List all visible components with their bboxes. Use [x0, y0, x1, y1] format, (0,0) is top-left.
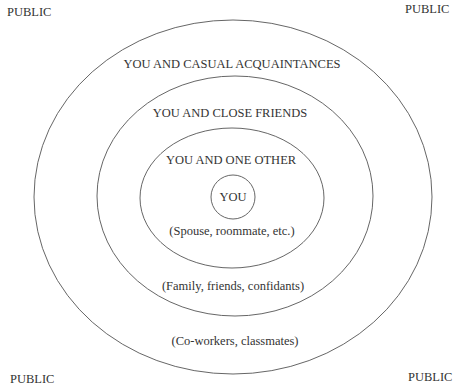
public-label-top-right: PUBLIC	[405, 3, 449, 16]
relationship-zones-diagram: PUBLIC PUBLIC PUBLIC PUBLIC YOU AND CASU…	[0, 0, 460, 391]
one-other-zone-sublabel: (Spouse, roommate, etc.)	[169, 225, 294, 238]
close-zone-label: YOU AND CLOSE FRIENDS	[153, 107, 308, 120]
close-zone-sublabel: (Family, friends, confidants)	[162, 280, 304, 293]
public-label-bottom-left: PUBLIC	[10, 373, 54, 386]
you-label: YOU	[219, 191, 246, 204]
one-other-zone-label: YOU AND ONE OTHER	[166, 154, 296, 167]
public-label-bottom-right: PUBLIC	[408, 371, 452, 384]
casual-zone-label: YOU AND CASUAL ACQUAINTANCES	[124, 58, 341, 71]
casual-zone-sublabel: (Co-workers, classmates)	[171, 335, 298, 348]
public-label-top-left: PUBLIC	[7, 6, 51, 19]
